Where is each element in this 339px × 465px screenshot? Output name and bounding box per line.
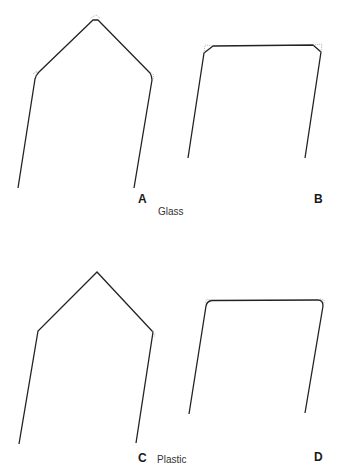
- panel-label-a: A: [138, 193, 147, 205]
- panel-label-d: D: [314, 451, 323, 463]
- diagram-canvas: [0, 0, 339, 465]
- panel-label-b: B: [314, 193, 323, 205]
- material-label-glass: Glass: [158, 207, 184, 217]
- material-label-plastic: Plastic: [157, 455, 186, 465]
- panel-a-dotted-corners: [33, 15, 154, 80]
- panel-a-outline: [18, 20, 152, 188]
- panel-b-outline: [188, 45, 321, 158]
- panel-label-c: C: [138, 452, 147, 464]
- panel-d-outline: [189, 300, 323, 414]
- panel-c-outline: [19, 272, 153, 444]
